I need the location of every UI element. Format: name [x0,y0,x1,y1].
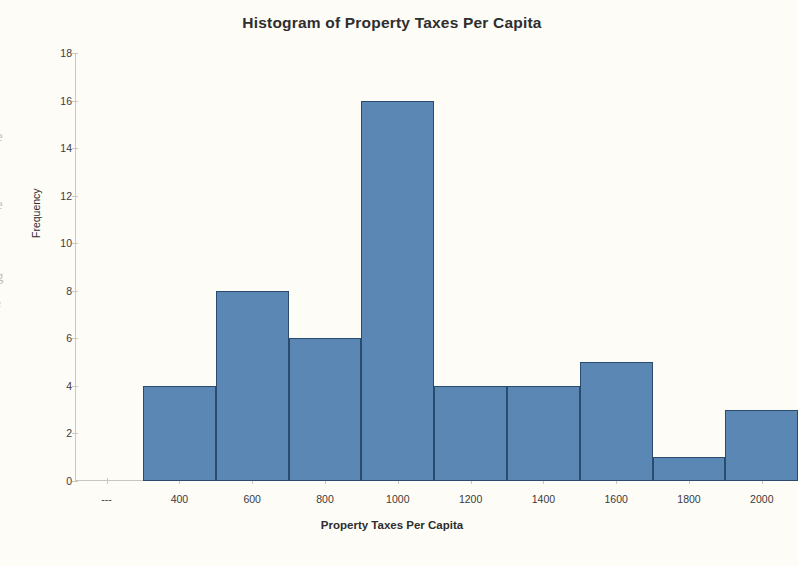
x-tick [107,478,108,484]
y-tick-label: 2 [32,427,72,439]
plot-area: 024681012141618 ---400600800100012001400… [75,53,775,481]
x-tick-label: 1000 [363,493,433,505]
histogram-bar [725,410,798,481]
y-tick-label: 8 [32,285,72,297]
y-tick [72,101,78,102]
x-tick-label: --- [72,493,142,505]
y-tick [72,481,78,482]
x-tick-label: 1800 [654,493,724,505]
y-tick [72,338,78,339]
histogram-bar [580,362,653,481]
y-tick [72,291,78,292]
histogram-bar [653,457,726,481]
x-tick-label: 400 [144,493,214,505]
page-title: Histogram of Property Taxes Per Capita [0,14,784,32]
y-tick-label: 14 [32,142,72,154]
y-tick [72,243,78,244]
y-axis-line [75,53,76,481]
y-tick-label: 12 [32,190,72,202]
x-tick-label: 600 [217,493,287,505]
y-tick [72,196,78,197]
y-tick-label: 4 [32,380,72,392]
y-tick-label: 18 [32,47,72,59]
x-tick-label: 2000 [727,493,797,505]
x-tick-label: 1600 [581,493,651,505]
x-axis-title: Property Taxes Per Capita [0,519,784,531]
y-tick-label: 0 [32,475,72,487]
x-tick-label: 1200 [436,493,506,505]
y-tick [72,433,78,434]
histogram-bar [289,338,362,481]
histogram-bar [361,101,434,481]
y-tick [72,53,78,54]
x-tick-label: 1400 [508,493,578,505]
y-tick-label: 6 [32,332,72,344]
y-tick [72,386,78,387]
y-tick [72,148,78,149]
x-tick-label: 800 [290,493,360,505]
histogram-bar [216,291,289,481]
y-tick-label: 16 [32,95,72,107]
y-tick-label: 10 [32,237,72,249]
histogram-bar [143,386,216,481]
histogram-bar [507,386,580,481]
histogram-bar [434,386,507,481]
